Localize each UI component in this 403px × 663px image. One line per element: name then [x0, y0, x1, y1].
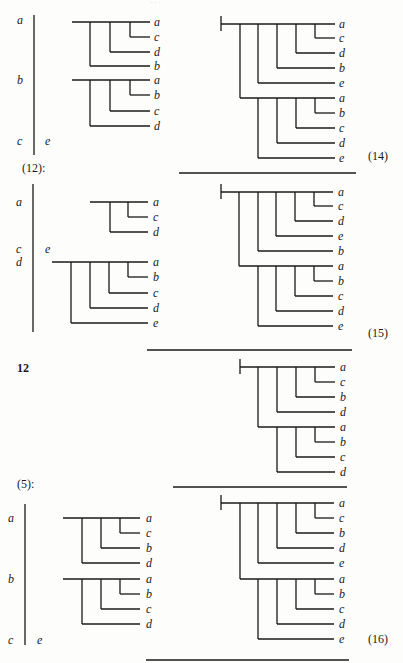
equation-number: (14) [368, 150, 388, 162]
leaf-label: c [338, 290, 343, 302]
leaf-label: b [338, 245, 344, 257]
leaf-label: e [338, 320, 343, 332]
leaf-label: c [339, 32, 344, 44]
leaf-label: d [340, 406, 346, 418]
leaf-label: d [339, 542, 345, 554]
leaf-label: c [338, 200, 343, 212]
leaf-label: e [153, 317, 158, 329]
left-label: a [8, 512, 14, 524]
leaf-label: a [146, 512, 152, 524]
leaf-label: a [339, 497, 345, 509]
leaf-label: a [339, 92, 345, 104]
leaf-label: d [338, 215, 344, 227]
leaf-label: b [154, 60, 160, 72]
leaf-label: d [339, 47, 345, 59]
left-label: c [16, 243, 21, 255]
leaf-label: a [339, 18, 345, 30]
leaf-label: c [154, 31, 159, 43]
extra-label: e [45, 135, 50, 147]
leaf-label: d [154, 120, 160, 132]
leaf-label: b [339, 588, 345, 600]
equation-number: (15) [368, 327, 388, 339]
leaf-label: b [340, 436, 346, 448]
leaf-label: d [340, 466, 346, 478]
left-label: c [17, 135, 22, 147]
leaf-label: a [338, 186, 344, 198]
leaf-label: c [340, 451, 345, 463]
leaf-label: e [339, 633, 344, 645]
intro-label: (12): [22, 162, 45, 174]
intro-label: (5): [17, 478, 34, 490]
leaf-label: e [339, 152, 344, 164]
leaf-label: d [339, 137, 345, 149]
leaf-label: d [338, 305, 344, 317]
leaf-label: c [154, 105, 159, 117]
leaf-label: c [340, 376, 345, 388]
leaf-label: a [154, 74, 160, 86]
leaf-label: d [153, 226, 159, 238]
intro-label: 12 [17, 362, 29, 374]
leaf-label: a [340, 421, 346, 433]
leaf-label: e [338, 230, 343, 242]
leaf-label: b [153, 271, 159, 283]
leaf-label: c [146, 527, 151, 539]
leaf-label: a [153, 256, 159, 268]
leaf-label: b [339, 527, 345, 539]
left-label: c [8, 634, 13, 646]
leaf-label: b [146, 588, 152, 600]
leaf-label: c [153, 287, 158, 299]
left-label: a [17, 14, 23, 26]
leaf-label: b [339, 62, 345, 74]
leaf-label: b [340, 391, 346, 403]
leaf-label: d [146, 557, 152, 569]
leaf-label: a [153, 196, 159, 208]
leaf-label: e [339, 77, 344, 89]
left-label: a [16, 196, 22, 208]
leaf-label: c [339, 603, 344, 615]
leaf-label: d [146, 618, 152, 630]
leaf-label: a [146, 573, 152, 585]
leaf-label: b [339, 107, 345, 119]
leaf-label: a [154, 16, 160, 28]
leaf-label: c [153, 211, 158, 223]
left-label: d [16, 256, 22, 268]
leaf-label: d [339, 618, 345, 630]
leaf-label: c [339, 512, 344, 524]
left-label: b [17, 74, 23, 86]
leaf-label: e [339, 557, 344, 569]
leaf-label: a [340, 361, 346, 373]
leaf-label: b [146, 542, 152, 554]
leaf-label: c [146, 603, 151, 615]
leaf-label: d [153, 302, 159, 314]
leaf-label: d [154, 46, 160, 58]
extra-label: e [45, 243, 50, 255]
leaf-label: a [338, 260, 344, 272]
leaf-label: a [339, 573, 345, 585]
extra-label: e [37, 634, 42, 646]
leaf-label: b [154, 89, 160, 101]
leaf-label: c [339, 122, 344, 134]
equation-number: (16) [368, 633, 388, 645]
left-label: b [8, 573, 14, 585]
leaf-label: b [338, 275, 344, 287]
